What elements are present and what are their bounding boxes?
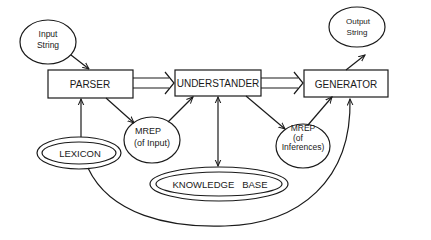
edge-parser-to-understander [133, 72, 174, 94]
output-string-label-1: Output [346, 17, 371, 26]
edge-generator-to-output [346, 55, 365, 70]
mrep-input-node: MREP (of Input) [124, 117, 180, 163]
mrep-inferences-label-1: MREP [291, 123, 316, 133]
edge-understander-to-generator [261, 72, 303, 94]
input-string-node: Input String [20, 20, 76, 64]
lexicon-node: LEXICON [37, 137, 121, 169]
mrep-inferences-node: MREP (of Inferences) [276, 123, 330, 168]
knowledge-base-node: KNOWLEDGE BASE [150, 167, 288, 201]
generator-node: GENERATOR [304, 70, 388, 97]
parser-node: PARSER [48, 70, 133, 98]
understander-label: UNDERSTANDER [177, 78, 260, 89]
parser-label: PARSER [70, 79, 110, 90]
input-string-label-2: String [37, 40, 59, 50]
input-string-label-1: Input [39, 29, 59, 39]
edge-mrep-inferences-to-generator [308, 97, 332, 125]
mrep-input-label-2: (of Input) [134, 138, 170, 148]
edge-input-to-parser [71, 55, 89, 69]
output-string-label-2: String [347, 28, 368, 37]
lexicon-label: LEXICON [59, 148, 101, 159]
edge-understander-to-mrep-inferences [246, 96, 285, 129]
mrep-input-label-1: MREP [135, 126, 161, 136]
understander-node: UNDERSTANDER [175, 70, 261, 96]
generator-label: GENERATOR [315, 79, 377, 90]
system-architecture-diagram: Input String Output String PARSER UNDERS… [0, 0, 431, 240]
edge-parser-to-mrep-input [106, 98, 134, 123]
output-string-node: Output String [329, 7, 385, 47]
mrep-inferences-label-3: Inferences) [282, 142, 325, 152]
edge-mrep-input-to-understander [168, 97, 193, 122]
knowledge-base-label: KNOWLEDGE BASE [172, 179, 267, 190]
